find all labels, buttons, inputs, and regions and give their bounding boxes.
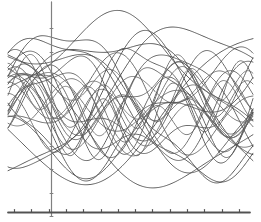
plot-figure: Dense overlay of about thirty smooth osc…: [0, 0, 261, 222]
sinusoid-family-chart-canvas: [0, 0, 261, 222]
